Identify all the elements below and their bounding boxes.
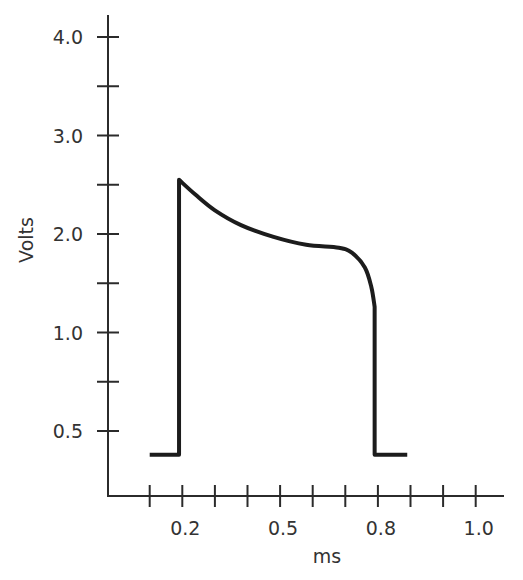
y-tick-label: 1.0	[53, 322, 83, 344]
x-tick-label: 0.8	[366, 517, 396, 539]
x-tick-label: 0.5	[268, 517, 298, 539]
x-axis-ticks: 0.20.50.81.0	[150, 485, 494, 539]
y-tick-label: 4.0	[53, 26, 83, 48]
x-tick-label: 1.0	[464, 517, 494, 539]
x-axis-title: ms	[313, 545, 341, 567]
y-tick-label: 2.0	[53, 223, 83, 245]
x-tick-label: 0.2	[170, 517, 200, 539]
y-axis-ticks: 4.03.02.01.00.5	[53, 26, 119, 442]
axes	[107, 15, 504, 496]
voltage-trace	[150, 180, 408, 455]
voltage-chart: 4.03.02.01.00.5 0.20.50.81.0 Volts ms	[0, 0, 523, 580]
y-tick-label: 0.5	[53, 420, 83, 442]
y-axis-title: Volts	[15, 217, 37, 263]
y-tick-label: 3.0	[53, 125, 83, 147]
